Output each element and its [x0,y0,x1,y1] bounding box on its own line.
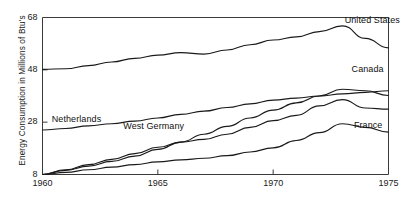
series-line-canada [43,91,389,130]
series-line-west-germany [43,100,389,175]
series-label-united-states: United States [345,15,400,25]
series-line-france [43,124,389,175]
chart-plot-area [0,0,410,199]
series-label-west-germany: West Germany [123,121,184,131]
y-tick-label: 28 [16,116,38,126]
series-label-canada: Canada [352,64,384,74]
y-tick-label: 68 [16,12,38,22]
x-tick-label: 1960 [23,178,63,188]
x-tick-label: 1970 [253,178,293,188]
series-label-netherlands: Netherlands [52,114,102,124]
x-tick-label: 1975 [369,178,409,188]
line-chart: Energy Consumption in Millions of Btu's … [0,0,410,199]
series-line-netherlands [43,89,389,174]
series-line-united-states [43,26,389,69]
plot-border [43,18,389,175]
data-series-lines [43,26,389,175]
plot-frame [43,18,389,175]
y-tick-label: 48 [16,64,38,74]
x-tick-label: 1965 [138,178,178,188]
series-label-france: France [354,120,383,130]
y-axis-title: Energy Consumption in Millions of Btu's [18,0,27,186]
